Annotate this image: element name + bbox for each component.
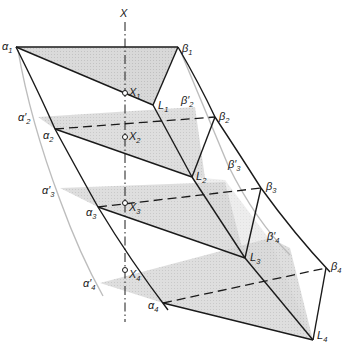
label-alpha2-prime: α′2 [18,111,31,126]
label-beta3-prime: β′3 [227,158,241,173]
label-alpha2: α2 [43,129,54,144]
label-alpha1: α1 [2,40,12,55]
point-x3 [123,201,128,206]
ruled-surface-diagram: X α1 α2 α3 α4 α′2 α′3 α′4 β1 β2 β3 β4 β′… [0,0,352,350]
alpha-prime-curve [18,50,103,296]
diagram-canvas: X α1 α2 α3 α4 α′2 α′3 α′4 β1 β2 β3 β4 β′… [0,0,352,350]
label-beta3: β3 [265,180,277,195]
label-x: X [119,7,128,19]
label-L4: L4 [317,329,327,344]
label-beta2-prime: β′2 [180,94,194,109]
point-x1 [123,91,128,96]
label-alpha3: α3 [86,206,97,221]
label-beta4: β4 [330,260,341,275]
shaded-planes [16,47,313,340]
label-alpha3-prime: α′3 [42,184,55,199]
label-alpha4: α4 [148,299,158,314]
point-x2 [123,135,128,140]
point-x4 [123,268,128,273]
label-beta2: β2 [218,110,230,125]
